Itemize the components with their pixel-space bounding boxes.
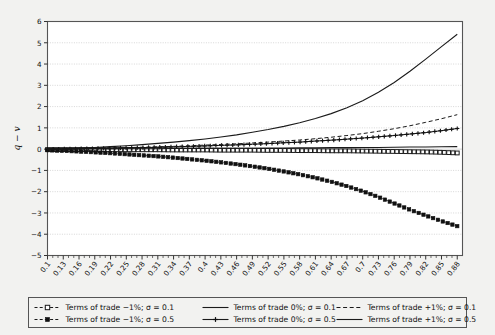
legend-label: Terms of trade 0%; σ = 0.1: [233, 303, 336, 312]
series-marker: [309, 149, 313, 153]
series-marker: [248, 164, 251, 167]
series-marker: [398, 204, 401, 207]
series-marker: [272, 168, 275, 171]
series-marker: [89, 150, 92, 153]
series-marker: [113, 152, 116, 155]
series-marker: [292, 172, 295, 175]
series-marker: [382, 149, 386, 153]
series-marker: [422, 213, 425, 216]
legend-marker-open-square: [45, 305, 49, 309]
series-marker: [224, 161, 227, 164]
legend-marker-filled-square: [46, 318, 50, 322]
series-marker: [325, 179, 328, 182]
series-marker: [322, 149, 326, 153]
series-marker: [171, 156, 174, 159]
series-marker: [277, 169, 280, 172]
series-marker: [421, 150, 425, 154]
series-marker: [340, 183, 343, 186]
series-marker: [266, 149, 270, 153]
series-marker: [451, 151, 455, 155]
y-tick-label: 4: [37, 60, 42, 69]
series-marker: [451, 223, 454, 226]
y-tick-label: −2: [31, 187, 42, 196]
series-marker: [446, 221, 449, 224]
series-marker: [391, 150, 395, 154]
series-marker: [190, 158, 193, 161]
y-tick-label: −3: [31, 209, 42, 218]
series-marker: [369, 192, 372, 195]
series-marker: [235, 148, 239, 152]
series-marker: [99, 151, 102, 154]
series-marker: [360, 149, 364, 153]
series-marker: [388, 200, 391, 203]
series-marker: [200, 159, 203, 162]
series-marker: [253, 165, 256, 168]
series-marker: [219, 161, 222, 164]
plot-area: [48, 22, 463, 256]
chart-canvas: 6543210−1−2−3−4−5q − v0.10.130.160.190.2…: [0, 0, 495, 335]
series-marker: [161, 155, 164, 158]
series-marker: [263, 166, 266, 169]
series-marker: [431, 216, 434, 219]
series-marker: [301, 173, 304, 176]
series-marker: [339, 149, 343, 153]
series-marker: [365, 149, 369, 153]
series-marker: [317, 149, 321, 153]
series-marker: [373, 149, 377, 153]
series-marker: [234, 162, 237, 165]
y-tick-label: 3: [37, 81, 42, 90]
legend-label: Terms of trade 0%; σ = 0.5: [233, 315, 336, 324]
series-marker: [296, 172, 299, 175]
series-marker: [436, 218, 439, 221]
series-marker: [231, 148, 235, 152]
series-marker: [195, 158, 198, 161]
series-marker: [205, 159, 208, 162]
series-marker: [104, 151, 107, 154]
series-marker: [349, 186, 352, 189]
y-tick-label: 1: [37, 124, 42, 133]
series-marker: [313, 149, 317, 153]
series-marker: [274, 149, 278, 153]
series-marker: [186, 157, 189, 160]
series-marker: [300, 149, 304, 153]
series-marker: [210, 160, 213, 163]
y-tick-label: 0: [37, 145, 42, 154]
series-marker: [239, 163, 242, 166]
series-marker: [442, 151, 446, 155]
series-marker: [244, 148, 248, 152]
y-tick-label: −1: [31, 166, 42, 175]
series-marker: [261, 148, 265, 152]
series-marker: [291, 149, 295, 153]
series-marker: [108, 151, 111, 154]
series-marker: [316, 177, 319, 180]
series-marker: [412, 150, 416, 154]
series-marker: [137, 153, 140, 156]
series-marker: [374, 194, 377, 197]
series-marker: [147, 154, 150, 157]
series-marker: [429, 150, 433, 154]
series-marker: [306, 175, 309, 178]
series-marker: [279, 149, 283, 153]
series-marker: [345, 184, 348, 187]
series-marker: [438, 150, 442, 154]
series-marker: [441, 220, 444, 223]
series-marker: [352, 149, 356, 153]
series-marker: [258, 166, 261, 169]
series-marker: [408, 150, 412, 154]
series-marker: [326, 149, 330, 153]
series-marker: [364, 191, 367, 194]
series-marker: [447, 151, 451, 155]
series-marker: [455, 151, 459, 155]
series-marker: [157, 155, 160, 158]
series-marker: [378, 149, 382, 153]
series-marker: [229, 162, 232, 165]
series-marker: [176, 156, 179, 159]
series-marker: [359, 189, 362, 192]
series-marker: [152, 154, 155, 157]
series-marker: [403, 206, 406, 209]
series-marker: [378, 196, 381, 199]
series-marker: [311, 176, 314, 179]
series-marker: [142, 154, 145, 157]
series-marker: [222, 148, 226, 152]
series-marker: [248, 148, 252, 152]
